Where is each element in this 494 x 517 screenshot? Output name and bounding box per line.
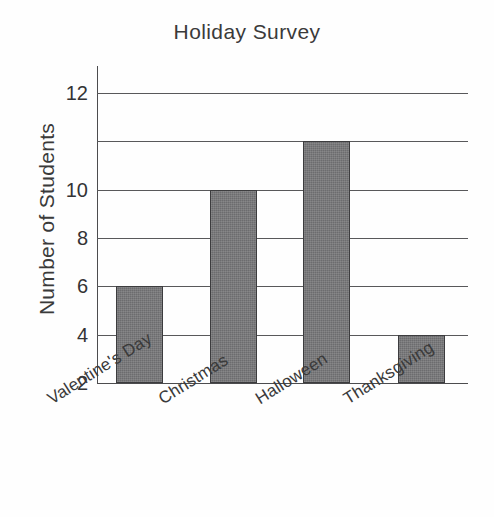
- gridline-12: [97, 93, 468, 94]
- gridline-6: [97, 238, 468, 239]
- y-tick-label: 8: [48, 227, 88, 250]
- gridline-10: [97, 141, 468, 142]
- chart-title: Holiday Survey: [0, 20, 494, 44]
- plot-area: [97, 93, 468, 383]
- y-tick-label: 4: [48, 323, 88, 346]
- chart-figure: Holiday Survey Number of Students 2 4 6 …: [0, 0, 494, 517]
- y-tick-label: 10: [48, 178, 88, 201]
- y-tick-label: 12: [48, 82, 88, 105]
- y-axis-tick-labels: 2 4 6 8 10 12: [40, 93, 88, 383]
- gridline-8: [97, 190, 468, 191]
- y-tick-label: 6: [48, 275, 88, 298]
- bar-halloween: [303, 141, 350, 383]
